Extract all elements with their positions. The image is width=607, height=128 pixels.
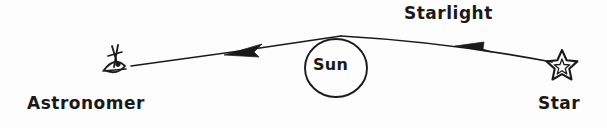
label-astronomer: Astronomer	[27, 93, 145, 113]
ray-segment-sun-to-astronomer	[131, 36, 341, 66]
star-icon	[547, 50, 578, 80]
label-starlight: Starlight	[404, 3, 493, 23]
arrowhead-left-icon-far	[455, 42, 492, 52]
arrowhead-left-icon-near	[224, 44, 262, 57]
eye-icon	[103, 45, 126, 72]
label-star: Star	[538, 93, 580, 113]
starlight-deflection-diagram: Astronomer Star Starlight Sun	[0, 0, 607, 128]
ray-segment-star-to-sun	[341, 36, 552, 62]
label-sun: Sun	[313, 55, 348, 74]
